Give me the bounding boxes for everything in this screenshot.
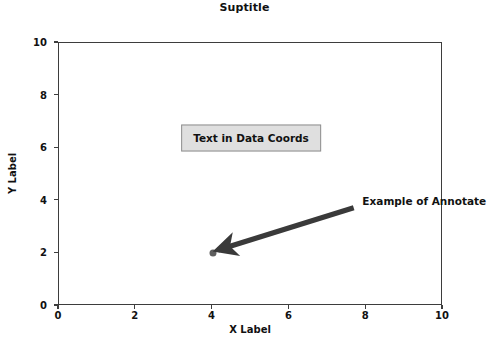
x-tick-label: 10 [435,310,449,321]
x-axis-label: X Label [58,324,442,335]
x-tick-label: 2 [131,310,138,321]
y-tick-label: 10 [33,37,47,48]
chart-suptitle: Suptitle [0,1,489,14]
y-tick-label: 6 [40,142,47,153]
x-tick-label: 8 [362,310,369,321]
x-tick-label: 4 [208,310,215,321]
plot-surface: Text in Data Coords Example of Annotate [59,43,441,304]
scatter-point-marker [209,250,216,257]
y-axis-label-text: Y Label [8,153,19,194]
annotate-label: Example of Annotate [362,195,486,207]
y-tick-label: 0 [40,300,47,311]
x-tick-label: 6 [285,310,292,321]
x-tick-mark [441,305,442,309]
y-axis-label: Y Label [6,42,20,305]
text-in-data-coords-box: Text in Data Coords [181,124,321,151]
plot-axes-frame: Text in Data Coords Example of Annotate [58,42,442,305]
y-tick-label: 4 [40,194,47,205]
x-tick-mark [211,305,212,309]
x-tick-mark [365,305,366,309]
x-tick-mark [134,305,135,309]
x-tick-mark [288,305,289,309]
y-tick-label: 2 [40,247,47,258]
figure-canvas: Suptitle Y Label X Label 02468100246810 … [0,0,489,347]
x-tick-label: 0 [55,310,62,321]
text-in-data-coords-label: Text in Data Coords [193,131,309,143]
y-tick-label: 8 [40,89,47,100]
